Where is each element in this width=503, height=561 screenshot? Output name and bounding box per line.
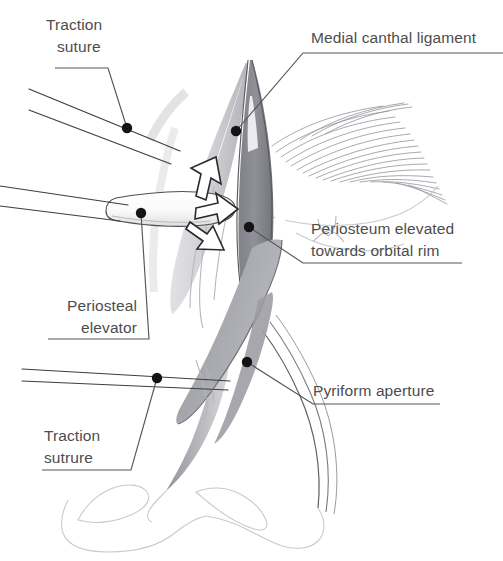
left-alar-crease bbox=[176, 516, 206, 532]
label-pyriform-aperture: Pyriform aperture bbox=[313, 382, 434, 399]
diagram-canvas: Traction suture Medial canthal ligament … bbox=[0, 0, 503, 561]
label-traction-suture-top-line2: suture bbox=[57, 38, 101, 55]
label-periosteum-elevated-line2: towards orbital rim bbox=[311, 242, 440, 259]
surgical-exposure-group bbox=[170, 60, 285, 444]
left-nostril bbox=[78, 485, 149, 522]
label-periosteal-elevator-line2: elevator bbox=[81, 319, 137, 336]
right-ala-sweep bbox=[282, 508, 324, 548]
leader-dot-periosteal-elevator bbox=[136, 208, 146, 218]
leader-dot-pyriform-aperture bbox=[242, 357, 252, 367]
nose-tip-outline bbox=[148, 491, 166, 522]
right-nostril bbox=[196, 488, 267, 530]
label-traction-sutrure-bottom-line1: Traction bbox=[44, 427, 100, 444]
leader-traction-suture-top bbox=[55, 68, 127, 128]
suture-middle-b[interactable] bbox=[0, 206, 120, 221]
label-medial-canthal-ligament: Medial canthal ligament bbox=[311, 29, 477, 46]
nose-outline-group bbox=[62, 315, 337, 552]
label-periosteum-elevated-line1: Periosteum elevated bbox=[311, 220, 454, 237]
brow-ridge-shadow bbox=[150, 92, 186, 140]
label-traction-sutrure-bottom-line2: sutrure bbox=[44, 449, 93, 466]
leader-dot-medial-canthal-ligament bbox=[231, 126, 241, 136]
nasal-sidewall-curve-1 bbox=[262, 330, 319, 508]
leader-medial-canthal-ligament bbox=[236, 53, 503, 131]
leader-dot-periosteum-elevated bbox=[244, 222, 254, 232]
suture-middle-a[interactable] bbox=[0, 186, 128, 205]
left-ala-outline bbox=[62, 500, 176, 552]
right-ala-outline bbox=[206, 516, 282, 546]
leader-dot-traction-suture-top bbox=[122, 123, 132, 133]
leader-dot-traction-sutrure-bottom bbox=[152, 373, 162, 383]
medical-illustration-figure: Traction suture Medial canthal ligament … bbox=[0, 0, 503, 561]
eyebrow-icon bbox=[272, 103, 447, 204]
label-traction-suture-top-line1: Traction bbox=[46, 16, 102, 33]
label-periosteal-elevator-line1: Periosteal bbox=[67, 297, 137, 314]
